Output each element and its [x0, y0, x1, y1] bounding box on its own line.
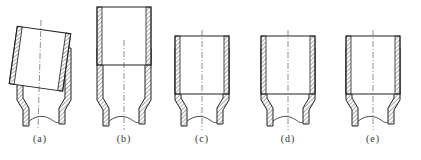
panel-d: [261, 30, 315, 130]
panel-label-d: (d): [281, 133, 296, 144]
panel-c: [175, 30, 229, 130]
panel-label-b: (b): [117, 133, 132, 144]
panel-label-e: (e): [366, 133, 380, 144]
panel-b: [97, 7, 151, 130]
panel-label-c: (c): [195, 133, 209, 144]
panel-e: [346, 30, 400, 130]
pipe-socket-diagram: [0, 0, 421, 160]
panel-label-a: (a): [33, 133, 47, 144]
panel-a: [9, 20, 71, 130]
